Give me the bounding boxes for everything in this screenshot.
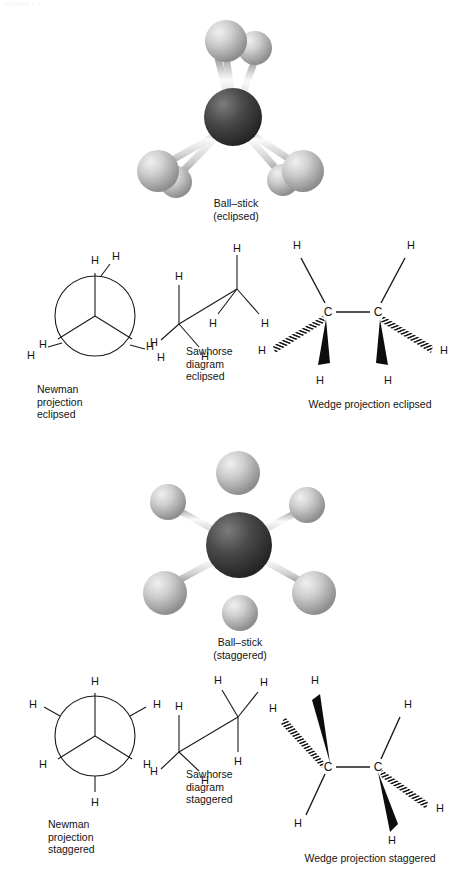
h-label: H: [404, 698, 412, 710]
caption-newman-eclipsed: Newman projection eclipsed: [37, 383, 137, 421]
c-label: C: [324, 760, 333, 774]
hydrogen-sphere: [222, 595, 258, 631]
h-label: H: [258, 344, 266, 356]
left-hashed-wedge: [281, 717, 324, 768]
h-label: H: [234, 755, 242, 767]
left-solid-wedge: [318, 319, 330, 365]
h-label: H: [150, 336, 158, 348]
wedge-staggered-diagram: C C H H H H H H: [268, 662, 468, 842]
hydrogen-sphere: [205, 20, 247, 62]
hydrogen-sphere: [216, 451, 260, 495]
carbon-atoms: [206, 512, 272, 578]
ball-stick-staggered-model: [0, 455, 470, 655]
h-label: H: [388, 834, 396, 846]
back-bond-lower-right: [130, 345, 145, 349]
h-label: H: [407, 239, 415, 251]
hydrogen-sphere: [143, 571, 187, 615]
h-label: H: [175, 700, 183, 712]
c-label: C: [374, 760, 383, 774]
back-bond-left: [218, 289, 237, 314]
h-label: H: [214, 674, 222, 686]
back-bond-right: [237, 289, 259, 314]
caption-newman-staggered: Newman projection staggered: [48, 818, 148, 856]
figure-header-text: FIGURE 4.1: [4, 1, 42, 7]
back-bond-upper-right: [238, 692, 258, 717]
h-label: H: [112, 250, 120, 262]
right-hashed-wedge: [381, 316, 433, 353]
c-c-bond: [179, 717, 238, 752]
carbon-sphere: [204, 88, 262, 146]
solid-wedges: [318, 319, 388, 365]
left-plain-bond-up: [301, 258, 325, 303]
hashed-wedges: [273, 316, 433, 353]
h-label: H: [440, 344, 448, 356]
h-label: H: [91, 675, 99, 687]
front-bond-lower-right: [95, 316, 132, 339]
c-c-bond: [179, 289, 237, 324]
h-label: H: [316, 374, 324, 386]
h-label: H: [209, 317, 217, 329]
h-label: H: [436, 802, 444, 814]
h-label: H: [311, 674, 319, 686]
hydrogen-labels: H H H H H H: [27, 250, 165, 363]
left-hashed-wedge: [273, 316, 325, 353]
front-bond-lower-left: [58, 316, 95, 339]
back-bond-lower-left: [48, 343, 62, 347]
newman-eclipsed-diagram: H H H H H H: [0, 248, 180, 398]
left-plain-bond-down: [306, 774, 325, 815]
back-bond-upper-left: [222, 690, 238, 717]
front-bond-left: [161, 324, 179, 340]
figure-ethane-conformations: FIGURE 4.1: [0, 0, 470, 886]
caption-ball-stick-staggered: Ball–stick (staggered): [170, 636, 310, 661]
back-bond-upper-right: [130, 707, 146, 716]
hydrogen-sphere: [150, 484, 186, 520]
ball-stick-eclipsed-model: [0, 8, 470, 218]
carbon-atoms: [204, 88, 262, 146]
back-bond-upper-left: [44, 707, 60, 716]
caption-wedge-eclipsed: Wedge projection eclipsed: [280, 398, 460, 411]
c-label: C: [324, 305, 333, 319]
h-label: H: [384, 374, 392, 386]
hydrogen-sphere: [292, 571, 336, 615]
h-label: H: [269, 702, 277, 714]
h-label: H: [29, 698, 37, 710]
h-label: H: [91, 796, 99, 808]
front-bond-left: [161, 752, 179, 769]
hydrogen-sphere: [137, 150, 179, 192]
h-label: H: [39, 758, 47, 770]
h-label: H: [233, 242, 241, 254]
h-label: H: [91, 254, 99, 266]
back-bond-up: [101, 264, 110, 276]
h-label: H: [175, 270, 183, 282]
c-label: C: [374, 305, 383, 319]
hydrogen-labels: H H H H H H: [150, 242, 269, 362]
h-label: H: [39, 338, 47, 350]
hydrogen-sphere: [289, 487, 325, 523]
hydrogen-labels: H H H H H H: [269, 674, 444, 846]
caption-ball-stick-eclipsed: Ball–stick (eclipsed): [166, 197, 306, 222]
hashed-wedges: [281, 717, 428, 809]
front-bond-right: [179, 324, 199, 347]
right-plain-bond-up: [381, 717, 400, 759]
wedge-eclipsed-diagram: C C H H H H H H: [268, 240, 468, 400]
front-bond-lower-right: [95, 736, 132, 759]
front-bond-lower-left: [58, 736, 95, 759]
h-label: H: [150, 765, 158, 777]
h-label: H: [27, 349, 35, 361]
right-solid-wedge: [376, 319, 388, 365]
carbon-sphere: [206, 512, 272, 578]
right-plain-bond-up: [381, 258, 405, 303]
h-label: H: [260, 676, 268, 688]
caption-wedge-staggered: Wedge projection staggered: [280, 852, 460, 865]
h-label: H: [293, 239, 301, 251]
newman-staggered-diagram: H H H H H H: [0, 668, 180, 818]
h-label: H: [294, 817, 302, 829]
hydrogen-sphere: [282, 150, 324, 192]
